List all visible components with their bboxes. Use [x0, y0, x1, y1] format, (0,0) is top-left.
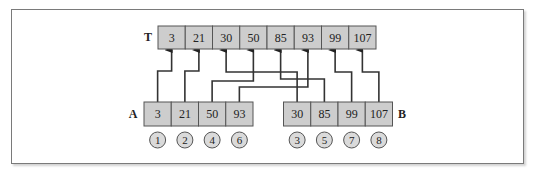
array-b-cell: 99 [338, 102, 365, 126]
array-a-order-circles: 1246 [150, 132, 248, 148]
array-b-order-badge: 8 [371, 132, 387, 148]
array-b-cell: 107 [365, 102, 392, 126]
array-t-cell: 30 [213, 26, 240, 49]
array-a-cell: 21 [171, 102, 198, 126]
array-a-order-badge: 1 [150, 132, 166, 148]
array-a: A 3215093 [129, 102, 253, 126]
array-t-cell-value: 93 [302, 31, 314, 45]
array-b-cell-value: 85 [318, 107, 330, 121]
merge-arrow [226, 50, 297, 102]
array-t-cell-value: 50 [247, 31, 259, 45]
array-t-cell: 21 [185, 26, 212, 49]
array-b-cell-value: 30 [291, 107, 303, 121]
connection-wires [158, 50, 379, 102]
array-a-order-number: 1 [155, 134, 161, 146]
array-b-order-number: 5 [322, 134, 328, 146]
array-t-cell-value: 21 [193, 31, 205, 45]
array-a-order-number: 6 [237, 134, 243, 146]
merge-arrow [281, 50, 325, 102]
array-t-cell-value: 99 [329, 31, 341, 45]
array-a-cell-value: 21 [179, 107, 191, 121]
array-a-cell: 50 [199, 102, 226, 126]
array-b: B 308599107 [284, 102, 407, 126]
array-b-order-number: 7 [349, 134, 355, 146]
array-a-label: A [129, 107, 138, 121]
merge-arrow [335, 50, 352, 102]
array-b-order-badge: 5 [316, 132, 332, 148]
array-a-cell-value: 93 [233, 107, 245, 121]
array-t-cell: 85 [267, 26, 294, 49]
array-a-order-badge: 4 [204, 132, 220, 148]
array-a-order-badge: 2 [177, 132, 193, 148]
array-t-cell: 99 [322, 26, 349, 49]
merge-arrow [158, 50, 172, 102]
array-a-order-badge: 6 [231, 132, 247, 148]
array-b-order-badge: 3 [289, 132, 305, 148]
array-t: T 3213050859399107 [144, 26, 376, 49]
array-t-cell: 107 [349, 26, 376, 49]
array-b-cell: 85 [311, 102, 338, 126]
merge-diagram: T 3213050859399107 A 3215093 B 308599107… [0, 0, 540, 177]
merge-arrow [212, 50, 253, 102]
array-a-cell-value: 50 [206, 107, 218, 121]
array-a-cell-value: 3 [155, 107, 161, 121]
array-t-cell: 50 [240, 26, 267, 49]
array-b-order-badge: 7 [344, 132, 360, 148]
array-b-cell-value: 99 [346, 107, 358, 121]
array-a-order-number: 4 [209, 134, 215, 146]
merge-arrow [362, 50, 379, 102]
array-t-cell: 93 [294, 26, 321, 49]
merge-arrow [185, 50, 199, 102]
array-t-cell-value: 3 [169, 31, 175, 45]
array-t-cell-value: 30 [220, 31, 232, 45]
array-a-cell: 3 [144, 102, 171, 126]
array-a-cell: 93 [226, 102, 253, 126]
array-b-cell: 30 [284, 102, 311, 126]
array-t-cell-value: 85 [275, 31, 287, 45]
array-b-cell-value: 107 [370, 107, 388, 121]
array-t-label: T [144, 30, 152, 44]
array-t-cell: 3 [158, 26, 185, 49]
array-b-label: B [398, 107, 406, 121]
array-t-cell-value: 107 [353, 31, 371, 45]
array-a-order-number: 2 [182, 134, 188, 146]
array-b-order-number: 3 [294, 134, 300, 146]
array-b-order-circles: 3578 [289, 132, 387, 148]
array-b-order-number: 8 [376, 134, 382, 146]
